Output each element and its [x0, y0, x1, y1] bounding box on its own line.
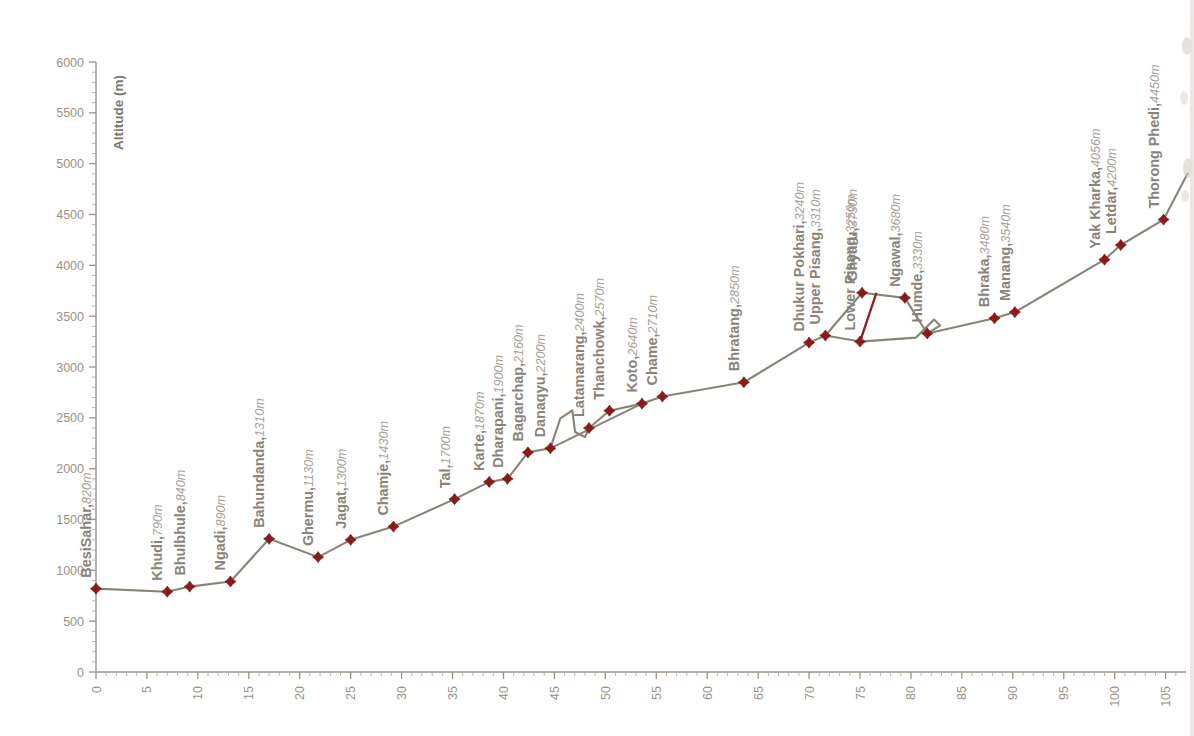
point-label-text: Latamarang,2400m	[571, 293, 587, 417]
point-label-group: Dhukur Pokhari,3240m	[791, 182, 807, 332]
data-point-marker: Bhratang, 2850m	[738, 377, 749, 388]
point-label-group: Bahundanda,1310m	[251, 398, 267, 528]
point-label-altitude: 1430m	[377, 421, 391, 460]
point-label-text: Karte,1870m	[471, 392, 487, 471]
point-label-place: Bhraka,	[976, 254, 992, 307]
data-point-marker: Dhukur Pokhari, 3240m	[803, 337, 814, 348]
x-axis-tick-labels: 0510152025303540455055606570758085909510…	[90, 686, 1174, 707]
point-label-place: BesiSahar,	[78, 504, 94, 578]
data-point-marker: Thorong Phedi, 4450m	[1158, 214, 1169, 225]
point-label-group: Ngawal,3680m	[887, 194, 903, 287]
data-point-labels: BesiSahar,820mKhudi,790mBhulbhule,840mNg…	[78, 65, 1162, 581]
point-label-group: Letdar,4200m	[1103, 148, 1119, 234]
point-label-place: Latamarang,	[571, 331, 587, 417]
point-label-place: Karte,	[471, 430, 487, 471]
point-label-group: Thanchowk,2570m	[591, 278, 607, 400]
data-point-marker: Chamje, 1430m	[388, 521, 399, 532]
x-tick-label: 80	[904, 686, 918, 700]
point-label-altitude: 2570m	[593, 278, 607, 318]
point-label-group: Danaqyu,2200m	[532, 334, 548, 437]
point-label-altitude: 3680m	[889, 194, 903, 233]
point-label-text: Ngawal,3680m	[887, 194, 903, 287]
y-tick-label: 6000	[56, 56, 84, 70]
point-label-altitude: 890m	[214, 495, 228, 527]
point-label-altitude: 4450m	[1148, 65, 1162, 104]
point-label-group: Chame,2710m	[644, 295, 660, 386]
point-label-place: Chamje,	[375, 460, 391, 516]
point-label-group: Ngadi,890m	[212, 495, 228, 571]
point-label-text: Thorong Phedi,4450m	[1146, 65, 1162, 209]
point-label-group: Lower Pisang,3250m	[842, 195, 858, 331]
data-point-marker: Tal, 1700m	[449, 494, 460, 505]
point-label-place: Yak Kharka,	[1087, 167, 1103, 249]
point-label-place: Ngadi,	[212, 527, 228, 571]
x-tick-label: 60	[701, 686, 715, 700]
point-label-place: Khudi,	[149, 536, 165, 581]
point-label-place: Bhulbhule,	[172, 501, 188, 575]
x-tick-label: 90	[1006, 686, 1020, 700]
x-tick-label: 25	[344, 686, 358, 700]
x-tick-label: 30	[395, 686, 409, 700]
x-tick-label: 15	[242, 686, 256, 700]
point-label-altitude: 1310m	[253, 398, 267, 437]
x-tick-label: 100	[1108, 686, 1122, 707]
point-label-text: Upper Pisang,3310m	[807, 189, 823, 324]
point-label-altitude: 2200m	[534, 334, 548, 374]
point-label-text: Koto,2640m	[624, 317, 640, 392]
data-point-marker: Danaqyu, 2200m	[545, 443, 556, 454]
point-label-place: Dharapani,	[490, 393, 506, 467]
y-tick-label: 3500	[56, 310, 84, 324]
point-label-text: Dhukur Pokhari,3240m	[791, 182, 807, 332]
point-label-text: Danaqyu,2200m	[532, 334, 548, 437]
point-label-place: Bagarchap,	[510, 363, 526, 441]
point-label-place: Upper Pisang,	[807, 228, 823, 325]
point-label-group: Manang,3540m	[997, 204, 1013, 301]
x-tick-label: 70	[803, 686, 817, 700]
data-point-marker: Koto, 2640m	[636, 398, 647, 409]
point-label-altitude: 3330m	[911, 231, 925, 270]
y-axis-tick-labels: 0500100015002000250030003500400045005000…	[56, 56, 84, 680]
y-tick-label: 4500	[56, 208, 84, 222]
data-point-marker: Jagat, 1300m	[345, 534, 356, 545]
axes-group	[96, 62, 1186, 672]
scan-speck-4	[1181, 190, 1189, 202]
point-label-altitude: 3250m	[844, 195, 858, 234]
point-label-text: Ngadi,890m	[212, 495, 228, 571]
point-label-altitude: 2160m	[512, 324, 526, 364]
data-point-marker: Lower Pisang, 3250m	[854, 336, 865, 347]
x-tick-label: 85	[955, 686, 969, 700]
x-tick-label: 5	[140, 686, 154, 693]
point-label-group: Chamje,1430m	[375, 421, 391, 516]
x-tick-label: 95	[1057, 686, 1071, 700]
point-label-group: Bagarchap,2160m	[510, 324, 526, 441]
scan-edge-band	[1190, 0, 1194, 736]
point-label-altitude: 840m	[174, 470, 188, 502]
point-label-text: Dharapani,1900m	[490, 355, 506, 468]
point-label-group: Karte,1870m	[471, 392, 487, 471]
point-label-text: Manang,3540m	[997, 204, 1013, 301]
x-tick-label: 35	[446, 686, 460, 700]
x-axis-ticks	[96, 672, 1176, 679]
point-label-place: Letdar,	[1103, 187, 1119, 234]
point-label-group: Ghermu,1130m	[300, 449, 316, 546]
x-tick-label: 20	[293, 686, 307, 700]
x-tick-label: 10	[191, 686, 205, 700]
point-label-altitude: 4200m	[1105, 148, 1119, 187]
point-label-altitude: 1300m	[335, 449, 349, 488]
point-label-text: Bhratang,2850m	[726, 266, 742, 372]
point-label-text: Bagarchap,2160m	[510, 324, 526, 441]
data-point-marker: Bhulbhule, 840m	[184, 581, 195, 592]
point-label-place: Jagat,	[333, 487, 349, 529]
point-label-group: Bhraka,3480m	[976, 216, 992, 307]
point-label-group: Yak Kharka,4056m	[1087, 129, 1103, 249]
data-point-marker: Bhraka, 3480m	[989, 313, 1000, 324]
y-axis-title: Altitude (m)	[111, 75, 126, 150]
point-label-place: Tal,	[437, 464, 453, 488]
point-label-place: Humde,	[909, 270, 925, 323]
point-label-place: Lower Pisang,	[842, 233, 858, 331]
point-label-group: Thorong Phedi,4450m	[1146, 65, 1162, 209]
point-label-place: Thorong Phedi,	[1146, 103, 1162, 209]
data-point-marker: Manang, 3540m	[1009, 307, 1020, 318]
scan-artifacts	[1180, 0, 1194, 736]
data-point-marker: Khudi, 790m	[162, 586, 173, 597]
